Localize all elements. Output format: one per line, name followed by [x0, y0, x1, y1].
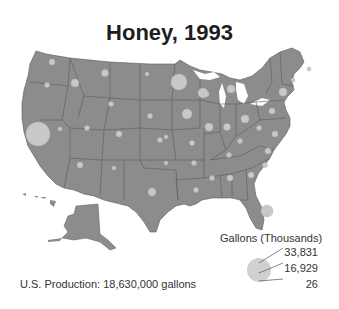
- circle-illinois: [205, 123, 213, 131]
- circle-ohio: [241, 115, 249, 123]
- legend-title: Gallons (Thousands): [220, 232, 322, 244]
- circle-north-dakota: [171, 74, 187, 90]
- circle-louisiana: [194, 188, 199, 193]
- circle-wyoming: [109, 102, 114, 107]
- circle-indiana: [224, 124, 231, 131]
- circle-idaho: [71, 79, 79, 87]
- circle-colorado: [116, 131, 122, 137]
- circle-iowa: [182, 109, 192, 119]
- circle-new-york: [279, 88, 287, 96]
- legend-value-mid: 16,929: [258, 262, 318, 274]
- circle-pennsylvania: [269, 108, 275, 114]
- circle-vermont: [291, 78, 295, 82]
- alaska-shape: [62, 204, 116, 250]
- circle-missouri: [190, 141, 195, 146]
- circle-kentucky: [238, 139, 243, 144]
- circle-new-mexico: [112, 166, 116, 170]
- circle-wisconsin: [203, 91, 209, 97]
- circle-mississippi: [210, 176, 215, 181]
- circle-arkansas: [192, 161, 197, 166]
- circle-maine: [307, 67, 311, 71]
- circle-tennessee: [227, 153, 232, 158]
- circle-oregon: [45, 83, 50, 88]
- circle-virginia: [272, 131, 278, 137]
- circle-missouri-2: [164, 135, 168, 139]
- circle-west-virginia: [257, 126, 262, 131]
- circle-south-dakota: [145, 72, 149, 76]
- contiguous-us-shape: [22, 48, 304, 232]
- hawaii-shape: [22, 193, 56, 207]
- circle-utah: [85, 126, 90, 131]
- us-production-total: U.S. Production: 18,630,000 gallons: [20, 278, 196, 290]
- circle-alabama: [227, 175, 233, 181]
- circle-florida: [261, 205, 273, 217]
- circle-oklahoma: [164, 161, 168, 165]
- aleutian-islands: [48, 238, 62, 242]
- circle-kansas: [158, 138, 163, 143]
- circle-michigan: [227, 85, 235, 93]
- circle-nevada: [58, 127, 62, 131]
- circle-california: [26, 122, 50, 146]
- circle-texas: [148, 188, 156, 196]
- legend-value-min: 26: [258, 278, 318, 290]
- circle-montana: [102, 70, 109, 77]
- circle-georgia: [248, 172, 254, 178]
- circle-washington: [49, 59, 55, 65]
- circle-north-carolina: [265, 148, 271, 154]
- circle-nebraska: [148, 114, 153, 119]
- legend-value-max: 33,831: [258, 246, 318, 258]
- circle-arizona: [77, 162, 83, 168]
- circle-south-carolina: [263, 163, 268, 168]
